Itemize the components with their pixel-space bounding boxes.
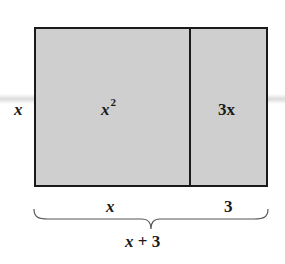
square-area-base: x <box>101 100 110 119</box>
side-label-x: x <box>14 101 23 118</box>
total-num: 3 <box>152 232 161 251</box>
strip-area-label: 3x <box>218 101 235 118</box>
square-area-exponent: 2 <box>111 96 117 108</box>
total-var: x <box>125 232 134 251</box>
area-model-diagram: x x2 3x x 3 x + 3 <box>0 0 285 264</box>
square-area-label: x2 <box>101 99 116 118</box>
curly-brace-icon <box>30 208 272 230</box>
total-op: + <box>134 232 152 251</box>
total-width-label: x + 3 <box>125 233 160 250</box>
